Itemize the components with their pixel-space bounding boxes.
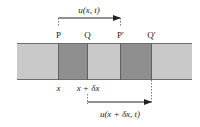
element-PQ-displaced (120, 43, 152, 80)
element-PQ (58, 43, 88, 80)
top-displacement-arrow: u(x, t) (59, 5, 121, 26)
point-label-P-prime: P′ (117, 30, 124, 40)
bar (17, 43, 192, 80)
point-label-Q-prime: Q′ (147, 30, 155, 40)
top-arrow-label: u(x, t) (78, 5, 100, 15)
point-label-P: P (56, 30, 61, 40)
bar-body (17, 43, 192, 80)
position-label-x-plus-dx: x + δx (76, 83, 100, 93)
bottom-arrow-label: u(x + δx, t) (100, 109, 140, 119)
position-label-x: x (56, 83, 61, 93)
point-label-Q: Q (84, 30, 91, 40)
displacement-diagram: u(x, t) P Q P′ Q′ x x + δx u(x + δx, t) (0, 0, 200, 127)
